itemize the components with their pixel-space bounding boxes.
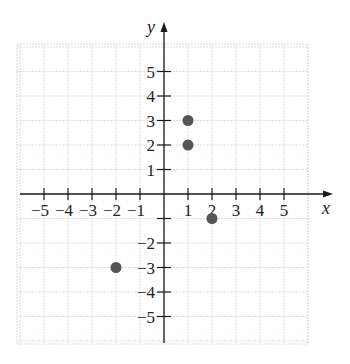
x-tick-label: −3 — [79, 201, 97, 220]
data-point — [111, 262, 122, 273]
data-point — [207, 213, 218, 224]
axes — [20, 22, 333, 343]
y-axis-label: y — [145, 17, 155, 37]
y-tick-label: −5 — [137, 308, 155, 327]
y-tick-label: 3 — [147, 112, 156, 131]
y-tick-label: −3 — [137, 259, 155, 278]
coordinate-plane: −5−4−3−2−112345−5−4−3−212345 x y — [0, 0, 350, 364]
x-tick-label: −4 — [55, 201, 74, 220]
x-tick-label: 3 — [232, 201, 241, 220]
y-tick-label: −4 — [137, 283, 156, 302]
x-tick-label: −2 — [103, 201, 121, 220]
y-tick-label: 4 — [147, 87, 156, 106]
x-tick-label: 5 — [280, 201, 289, 220]
y-axis-arrow-icon — [161, 22, 168, 32]
data-point — [183, 115, 194, 126]
x-tick-label: −1 — [127, 201, 145, 220]
x-tick-label: 4 — [256, 201, 265, 220]
data-point — [183, 140, 194, 151]
x-tick-label: 1 — [184, 201, 193, 220]
y-tick-label: 5 — [147, 63, 156, 82]
y-tick-label: 2 — [147, 136, 156, 155]
y-tick-label: −2 — [137, 234, 155, 253]
y-tick-label: 1 — [147, 161, 156, 180]
x-axis-label: x — [321, 198, 330, 218]
x-tick-label: −5 — [31, 201, 49, 220]
x-axis-arrow-icon — [323, 191, 333, 198]
